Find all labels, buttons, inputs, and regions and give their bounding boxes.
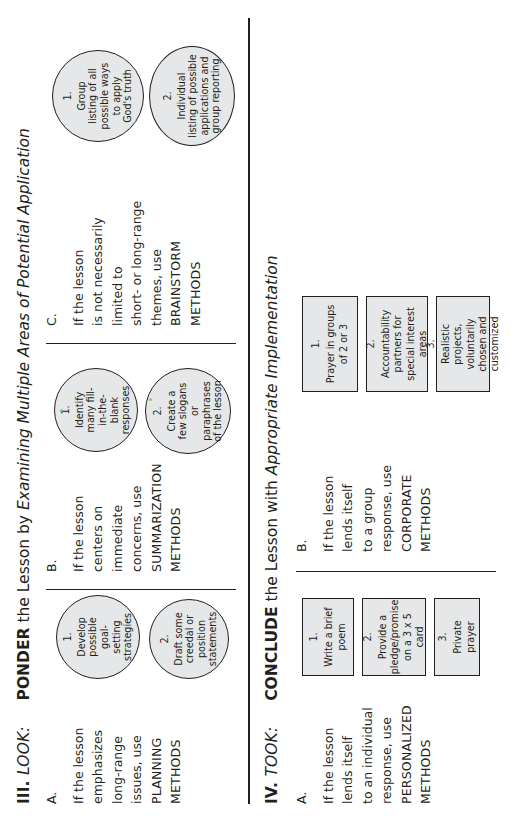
took-roman-word: TOOK: (263, 727, 281, 777)
look-heading-row: III. LOOK:PONDER the Lesson by Examining… (14, 14, 33, 804)
section-look: III. LOOK:PONDER the Lesson by Examining… (0, 0, 248, 822)
look-heading-title: PONDER the Lesson by Examining Multiple … (15, 128, 33, 700)
scan-speck-icon (149, 398, 152, 401)
shape-number: 3. (437, 632, 449, 641)
shape-line: of the lesson (212, 380, 224, 442)
look-column-c-letter: C. (46, 14, 59, 326)
shape-number: 3. (425, 339, 437, 348)
shape-line: group reporting (210, 58, 222, 133)
shape-line: Identify (74, 392, 86, 428)
look-column-divider-1 (46, 589, 236, 590)
shape-line: God's truth (122, 69, 134, 123)
shape-line: or paraphrases (189, 375, 212, 447)
shape-number: 2. (362, 632, 374, 641)
shape-line: in-the- (97, 394, 109, 425)
took-heading-strong: CONCLUDE (263, 607, 281, 701)
shape-line: possible ways (99, 63, 111, 130)
shape-line: strategies (122, 613, 134, 661)
shape-line: setting (111, 620, 123, 653)
shape-line: possible (87, 617, 99, 656)
look-column-a: A. If the lesson emphasizes long-range i… (46, 608, 236, 804)
shape-line: creedal or (184, 615, 196, 663)
shape-line: Individual (176, 73, 188, 120)
took-a-box-2: 2. Provide a pledge/promise on a 3 x 5 c… (362, 598, 426, 676)
look-column-b: B. If the lesson centers on immediate co… (46, 362, 236, 572)
shape-number: 1. (310, 339, 322, 348)
shape-number: 1. (308, 632, 320, 641)
took-columns: A. If the lesson lends itself to an indi… (296, 14, 496, 804)
shape-number: 1. (62, 632, 74, 641)
look-heading-strong: PONDER (15, 628, 33, 701)
shape-number: 2. (152, 406, 164, 415)
shape-line: Create a (166, 391, 178, 432)
shape-line: few slogans (177, 383, 189, 440)
section-took: IV. TOOK:CONCLUDE the Lesson with Approp… (248, 0, 513, 822)
took-a-box-1: 1. Write a brief poem (302, 598, 354, 676)
shape-line: statements (207, 612, 219, 666)
shape-line: applications and (199, 56, 211, 135)
took-column-a: A. If the lesson lends itself to an indi… (296, 594, 496, 804)
shape-line: Private prayer (452, 604, 476, 670)
shape-line: Prayer in groups of 2 or 3 (325, 302, 349, 386)
shape-number: 1. (62, 91, 74, 100)
shape-line: to apply (111, 76, 123, 115)
shape-line: blank (109, 397, 121, 423)
shape-line: listing of all (87, 68, 99, 123)
took-heading-italic: Appropriate Implementation (263, 255, 281, 475)
shape-line: Realistic projects, voluntarily (440, 302, 477, 386)
shape-number: 2. (162, 91, 174, 100)
scan-speck-icon (60, 409, 63, 412)
rotated-page-wrapper: III. LOOK:PONDER the Lesson by Examining… (0, 0, 513, 822)
shape-line: goal- (99, 625, 111, 649)
took-heading-rest: the Lesson with (263, 475, 281, 606)
took-b-box-3: 3. Realistic projects, voluntarily chose… (436, 296, 490, 392)
shape-line: Group (76, 81, 88, 110)
look-roman-numeral: III. LOOK: (15, 726, 33, 804)
look-roman-word: LOOK: (15, 726, 33, 774)
shape-number: 2. (365, 339, 377, 348)
look-heading-italic: Examining Multiple Areas of Potential Ap… (15, 128, 33, 510)
shape-line: Write a brief poem (323, 604, 347, 670)
look-b-ellipse-2: 2. Create a few slogans or paraphrases o… (145, 368, 231, 454)
look-columns: A. If the lesson emphasizes long-range i… (46, 14, 236, 804)
look-a-ellipse-1: 1. Develop possible goal- setting strate… (56, 595, 140, 679)
text-line: short- or long-range (127, 14, 147, 326)
shape-number: 2. (159, 634, 171, 643)
look-a-ellipse-2: 2. Draft some creedal or position statem… (149, 599, 229, 679)
shape-line: Draft some (173, 612, 185, 665)
shape-line: Accountability partners for (380, 302, 404, 386)
shape-line: responses (120, 386, 132, 435)
took-column-b: B. If the lesson lends itself to a group… (296, 252, 496, 552)
shape-line: listing of possible (187, 54, 199, 138)
shape-line: many fill- (85, 388, 97, 433)
shape-line: Provide a pledge/promise (377, 600, 401, 675)
look-column-c: C. If the lesson is not necessarily limi… (46, 14, 236, 326)
shape-line: Develop (76, 617, 88, 657)
took-b-box-1: 1. Prayer in groups of 2 or 3 (302, 296, 358, 392)
look-c-ellipse-1: 1. Group listing of all possible ways to… (52, 50, 144, 142)
look-c-ellipse-2: 2. Individual listing of possible applic… (149, 46, 235, 146)
took-heading-title: CONCLUDE the Lesson with Appropriate Imp… (263, 255, 281, 700)
took-b-box-2: 2. Accountability partners for special i… (366, 296, 428, 392)
look-b-ellipse-1: 1. Identify many fill- in-the- blank res… (54, 368, 138, 452)
took-column-divider-1 (296, 571, 496, 572)
look-column-divider-2 (46, 343, 236, 344)
document-page: III. LOOK:PONDER the Lesson by Examining… (0, 0, 513, 822)
took-a-box-3: 3. Private prayer (434, 598, 480, 676)
shape-line: on a 3 x 5 card (402, 604, 426, 670)
look-heading-rest: the Lesson by (15, 510, 33, 628)
took-roman-numeral: IV. TOOK: (263, 727, 281, 804)
took-heading-row: IV. TOOK:CONCLUDE the Lesson with Approp… (262, 14, 281, 804)
shape-line: position (196, 620, 208, 658)
shape-line: chosen and customized (477, 302, 501, 386)
